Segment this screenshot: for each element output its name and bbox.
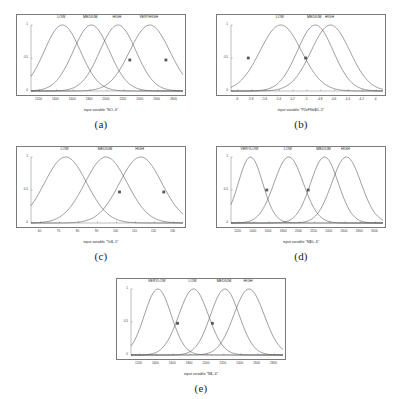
membership-curve bbox=[31, 25, 183, 91]
x-tick-label: 2400 bbox=[236, 361, 243, 365]
panel-letter-d: (d) bbox=[216, 250, 386, 262]
x-tick-label: 1200 bbox=[135, 361, 142, 365]
x-tick-label: 60 bbox=[38, 229, 41, 233]
x-tick-label: 1600 bbox=[69, 97, 76, 101]
mf-label: LOW bbox=[189, 279, 197, 283]
membership-curve bbox=[131, 289, 283, 355]
x-tick-label: -5 bbox=[305, 97, 308, 101]
curve-handle-marker[interactable] bbox=[265, 189, 268, 192]
x-tick-label: 2000 bbox=[103, 97, 110, 101]
membership-curve bbox=[31, 157, 183, 223]
y-tick-label: 0.5 bbox=[224, 55, 228, 59]
x-tick-label: 2400 bbox=[136, 97, 143, 101]
y-tick-label: 1 bbox=[26, 154, 28, 158]
curve-handle-marker[interactable] bbox=[128, 59, 131, 62]
x-tick-label: 80 bbox=[76, 229, 79, 233]
x-tick-label: -4 bbox=[374, 97, 377, 101]
x-tick-label: 2600 bbox=[153, 97, 160, 101]
x-tick-label: 1600 bbox=[265, 229, 272, 233]
plot-area-d bbox=[216, 146, 386, 228]
curves-c bbox=[17, 147, 187, 229]
mf-label: VERYLOW bbox=[148, 279, 166, 283]
curve-handle-marker[interactable] bbox=[304, 57, 307, 60]
mf-label: HIGH bbox=[135, 147, 144, 151]
plot-area-c bbox=[16, 146, 186, 228]
panel-letter-e: (e) bbox=[116, 382, 286, 394]
panel-b: input variable "P2oFNe$0--5" (b) -6-5.8-… bbox=[216, 14, 386, 132]
x-tick-label: 2600 bbox=[341, 229, 348, 233]
y-tick-label: 1 bbox=[26, 22, 28, 26]
x-tick-label: 130 bbox=[170, 229, 175, 233]
mf-label: MEDIUM bbox=[98, 147, 113, 151]
y-tick-label: 1 bbox=[126, 286, 128, 290]
mf-label: LOW bbox=[284, 147, 292, 151]
x-tick-label: 2800 bbox=[270, 361, 277, 365]
x-tick-label: 1800 bbox=[86, 97, 93, 101]
mf-label: LOW bbox=[57, 15, 65, 19]
x-tick-label: 110 bbox=[132, 229, 137, 233]
curves-a bbox=[17, 15, 187, 97]
mf-label: HIGH bbox=[112, 15, 121, 19]
curve-handle-marker[interactable] bbox=[162, 191, 165, 194]
membership-curve bbox=[131, 289, 283, 355]
x-axis-title-b: input variable "P2oFNe$0--5" bbox=[216, 108, 386, 112]
curve-handle-marker[interactable] bbox=[211, 322, 214, 325]
membership-curve bbox=[31, 25, 183, 91]
x-tick-label: 90 bbox=[95, 229, 98, 233]
y-tick-label: 1 bbox=[226, 154, 228, 158]
curves-b bbox=[217, 15, 387, 97]
y-tick-label: 0 bbox=[26, 88, 28, 92]
x-tick-label: 1400 bbox=[249, 229, 256, 233]
mf-label: VERYLOW bbox=[241, 147, 259, 151]
x-tick-label: -4.4 bbox=[345, 97, 350, 101]
x-tick-label: 1800 bbox=[280, 229, 287, 233]
panel-letter-b: (b) bbox=[216, 118, 386, 130]
x-tick-label: 100 bbox=[113, 229, 118, 233]
mf-label: LOW bbox=[276, 15, 284, 19]
x-tick-label: -5.4 bbox=[276, 97, 281, 101]
panel-e: input variable "N$--6" (e) 1200140016001… bbox=[116, 278, 286, 396]
x-tick-label: 1400 bbox=[52, 97, 59, 101]
x-tick-label: 2800 bbox=[356, 229, 363, 233]
plot-area-b bbox=[216, 14, 386, 96]
x-tick-label: -6 bbox=[236, 97, 239, 101]
curves-e bbox=[117, 279, 287, 361]
y-tick-label: 0.5 bbox=[24, 55, 28, 59]
x-axis-title-a: input variable "NO--6" bbox=[16, 108, 186, 112]
x-tick-label: -5.8 bbox=[248, 97, 253, 101]
y-tick-label: 0.5 bbox=[224, 187, 228, 191]
x-tick-label: -4.2 bbox=[359, 97, 364, 101]
y-tick-label: 1 bbox=[226, 22, 228, 26]
curve-handle-marker[interactable] bbox=[247, 57, 250, 60]
curve-handle-marker[interactable] bbox=[165, 59, 168, 62]
x-tick-label: 2200 bbox=[119, 97, 126, 101]
curve-handle-marker[interactable] bbox=[307, 189, 310, 192]
y-tick-label: 0 bbox=[226, 88, 228, 92]
curves-d bbox=[217, 147, 387, 229]
y-tick-label: 0.5 bbox=[124, 319, 128, 323]
x-tick-label: 2600 bbox=[253, 361, 260, 365]
mf-label: MEDIUM bbox=[316, 147, 331, 151]
x-tick-label: 1400 bbox=[152, 361, 159, 365]
x-tick-label: 1600 bbox=[169, 361, 176, 365]
panel-c: input variable "Te$--5" (c) 607080901001… bbox=[16, 146, 186, 264]
x-axis-title-e: input variable "N$--6" bbox=[116, 372, 286, 376]
mf-label: MEDIUM bbox=[307, 15, 322, 19]
x-tick-label: 1200 bbox=[234, 229, 241, 233]
panel-a: input variable "NO--6" (a) 1200140016001… bbox=[16, 14, 186, 132]
curve-handle-marker[interactable] bbox=[176, 322, 179, 325]
x-tick-label: -4.6 bbox=[331, 97, 336, 101]
axis-lines bbox=[31, 25, 183, 91]
membership-curve bbox=[31, 25, 183, 91]
plot-area-a bbox=[16, 14, 186, 96]
curve-handle-marker[interactable] bbox=[118, 191, 121, 194]
membership-curve bbox=[131, 289, 283, 355]
mf-label: HIGH bbox=[325, 15, 334, 19]
x-axis-title-d: input variable "N$0--6" bbox=[216, 240, 386, 244]
x-tick-label: 2000 bbox=[295, 229, 302, 233]
panel-letter-c: (c) bbox=[16, 250, 186, 262]
y-tick-label: 0 bbox=[226, 220, 228, 224]
x-tick-label: 2800 bbox=[170, 97, 177, 101]
figure-membership-function-plots: input variable "NO--6" (a) 1200140016001… bbox=[0, 0, 400, 399]
y-tick-label: 0 bbox=[26, 220, 28, 224]
